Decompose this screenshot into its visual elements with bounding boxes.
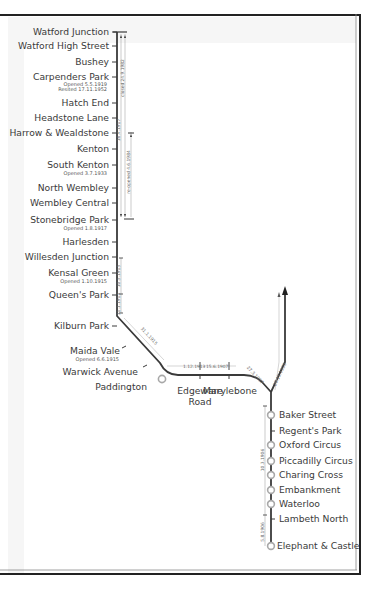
- date-label: closed 24.9.1982: [120, 59, 125, 97]
- date-label: 20.11.1939: [272, 362, 287, 387]
- station-label[interactable]: Bushey: [75, 56, 109, 67]
- station-label[interactable]: Marylebone: [203, 385, 257, 396]
- station-label[interactable]: Willesden Junction: [25, 251, 109, 262]
- station-note: Opened 3.7.1933: [64, 170, 107, 177]
- station-label[interactable]: Embankment: [279, 484, 341, 495]
- date-label: 15.6.1907: [206, 364, 229, 369]
- north-stations: Watford Junction Watford High Street Bus…: [9, 26, 147, 392]
- station-note: Opened 6.6.1915: [76, 356, 119, 363]
- station-label[interactable]: Lambeth North: [279, 513, 348, 524]
- arrow-icon: [120, 214, 122, 217]
- date-line-diag: [124, 318, 164, 360]
- station-label[interactable]: Regent's Park: [279, 425, 342, 436]
- station-label[interactable]: Warwick Avenue: [63, 366, 139, 377]
- arrow-icon: [120, 35, 122, 38]
- station-label[interactable]: Piccadilly Circus: [279, 455, 353, 466]
- station-label[interactable]: Harrow & Wealdstone: [9, 127, 109, 138]
- south-stations: Baker Street Regent's Park Oxford Circus…: [268, 409, 360, 551]
- arrow-up-small-icon: [278, 292, 281, 297]
- station-note: Resited 17.11.1952: [58, 86, 107, 92]
- date-label: 16.4.1917: [116, 119, 121, 142]
- station-label[interactable]: Wembley Central: [30, 197, 109, 208]
- arrow-up-icon: [282, 286, 288, 295]
- line-diagram: 16.4.1917 closed 24.9.1982 re-opened 4.6…: [0, 0, 372, 589]
- station-label[interactable]: Stonebridge Park: [30, 214, 109, 225]
- station-label[interactable]: Headstone Lane: [34, 112, 109, 123]
- date-label: 10.3.1906: [260, 449, 265, 472]
- station-label[interactable]: Kenton: [77, 143, 109, 154]
- station-label[interactable]: Maida Vale: [70, 345, 120, 356]
- station-label[interactable]: Watford High Street: [18, 40, 109, 51]
- station-label[interactable]: Elephant & Castle: [277, 540, 360, 551]
- station-label[interactable]: Oxford Circus: [279, 439, 341, 450]
- date-label: 5.8.1906: [260, 522, 265, 542]
- date-label: 1.12.1913: [183, 364, 206, 369]
- station-label[interactable]: Paddington: [95, 381, 147, 392]
- station-label[interactable]: Watford Junction: [33, 26, 109, 37]
- date-label: 31.1.1915: [116, 293, 121, 316]
- station-label[interactable]: Waterloo: [279, 498, 320, 509]
- station-label[interactable]: Baker Street: [279, 409, 337, 420]
- station-label[interactable]: Queen's Park: [49, 289, 110, 300]
- station-label[interactable]: Hatch End: [62, 97, 109, 108]
- arrow-icon: [124, 35, 126, 38]
- bakerloo-main-line: [117, 32, 271, 546]
- station-label[interactable]: North Wembley: [38, 182, 110, 193]
- station-label[interactable]: Harlesden: [62, 236, 109, 247]
- station-label[interactable]: Charing Cross: [279, 469, 343, 480]
- interchange-icon: [158, 375, 165, 382]
- station-label[interactable]: Kensal Green: [48, 267, 109, 278]
- station-note: Opened 1.10.1915: [60, 278, 107, 285]
- date-label: re-opened 4.6.1984: [126, 150, 131, 194]
- arrow-icon: [130, 134, 132, 137]
- date-label: 10.5.1915: [116, 265, 121, 288]
- station-label[interactable]: Road: [188, 396, 211, 407]
- station-label[interactable]: Kilburn Park: [54, 320, 110, 331]
- arrow-icon: [124, 214, 126, 217]
- station-note: Opened 1.8.1917: [64, 225, 107, 232]
- station-label[interactable]: South Kenton: [47, 159, 109, 170]
